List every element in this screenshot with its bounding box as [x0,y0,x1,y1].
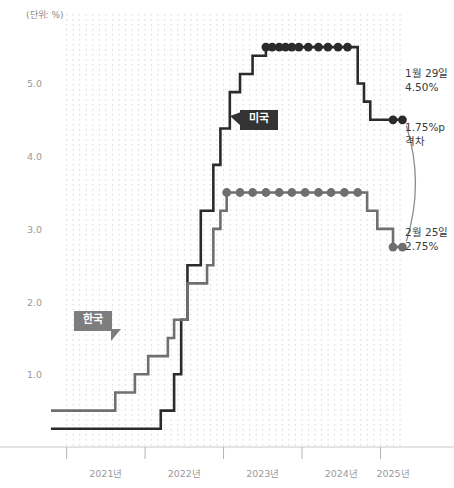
annotation-kr-date: 2월 25일 [405,226,448,238]
interest-rate-chart: (단위: %) 1.02.03.04.05.0 2021년2022년2023년2… [0,0,454,488]
x-tick-label: 2024년 [325,466,358,480]
chart-plot-area [0,0,454,488]
x-tick-label: 2023년 [246,466,279,480]
annotation-us-date: 1월 29일 [405,67,448,79]
annotation-gap-word: 격차 [405,134,445,148]
kr-callout-tail [111,329,125,341]
axis-group [0,447,454,459]
series-label-kr: 한국 [74,311,112,331]
x-tick-label: 2021년 [89,466,122,480]
y-tick-label: 2.0 [16,296,42,307]
annotation-kr-endpoint: 2월 25일 2.75% [405,225,448,253]
annotation-kr-value: 2.75% [405,239,448,253]
y-tick-label: 1.0 [16,369,42,380]
y-tick-label: 5.0 [16,78,42,89]
y-tick-label: 3.0 [16,223,42,234]
annotation-gap: 1.75%p 격차 [405,120,445,148]
x-tick-label: 2022년 [168,466,201,480]
gridlines-group [67,14,400,447]
annotation-us-value: 4.50% [405,80,448,94]
series-lines-group [51,47,403,429]
x-tick-label: 2025년 [376,466,409,480]
annotation-gap-value: 1.75%p [405,121,445,133]
y-tick-label: 4.0 [16,151,42,162]
annotation-us-endpoint: 1월 29일 4.50% [405,66,448,94]
series-label-us: 미국 [240,110,278,130]
